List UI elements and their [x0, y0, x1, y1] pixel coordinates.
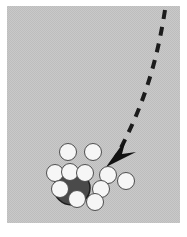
particle-circle — [52, 181, 69, 198]
particle-cluster-figure — [0, 0, 187, 237]
particle-circle — [60, 144, 77, 161]
figure-root — [0, 0, 187, 237]
particle-circle — [77, 165, 94, 182]
particle-circle — [118, 173, 135, 190]
particle-circle — [85, 144, 102, 161]
particle-circle — [47, 165, 64, 182]
particle-circle — [69, 191, 86, 208]
particle-circle — [87, 194, 104, 211]
particle-circle — [62, 164, 79, 181]
